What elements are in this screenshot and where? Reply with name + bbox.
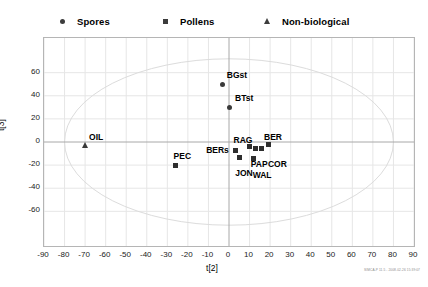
data-point-label: PEC	[174, 152, 191, 161]
legend-label: Non-biological	[282, 16, 349, 27]
y-axis-title: t[3]	[0, 119, 6, 131]
y-tick-label: -40	[16, 183, 40, 191]
data-point-label: WAL	[253, 171, 272, 180]
data-point-label: BTst	[235, 94, 253, 103]
legend-entry[interactable]: Pollens	[160, 12, 215, 30]
data-point-label: BERs	[206, 146, 229, 155]
legend-label: Spores	[77, 16, 110, 27]
triangle-marker-icon	[82, 142, 88, 148]
data-point-label: PAP	[251, 160, 268, 169]
data-point-label: OIL	[89, 133, 103, 142]
x-tick-label: 90	[400, 250, 426, 259]
circle-marker-icon	[220, 82, 225, 87]
circle-marker-icon	[227, 105, 232, 110]
y-tick-label: 0	[16, 137, 40, 145]
square-marker-icon	[259, 146, 264, 151]
y-tick-label: 20	[16, 114, 40, 122]
square-marker-icon	[233, 148, 238, 153]
square-marker-icon	[160, 16, 171, 27]
y-tick-label: 60	[16, 68, 40, 76]
x-axis-tick-labels: -90-80-70-60-50-40-30-20-100102030405060…	[43, 250, 415, 262]
data-point-label: BER	[264, 133, 282, 142]
plot-area: BGstBTstPECBERsRAGPAPCORBERJONWALOIL	[43, 37, 415, 247]
square-marker-icon	[251, 156, 256, 161]
data-point-label: COR	[268, 160, 287, 169]
y-tick-label: 40	[16, 91, 40, 99]
square-marker-icon	[237, 155, 242, 160]
legend-entry[interactable]: Spores	[57, 12, 110, 30]
circle-marker-icon	[57, 16, 68, 27]
y-tick-label: -20	[16, 160, 40, 168]
x-axis-title-text: t[2]	[206, 263, 218, 273]
scatter-plot-figure: SporesPollensNon-biological 6040200-20-4…	[0, 0, 428, 287]
legend: SporesPollensNon-biological	[0, 12, 428, 30]
y-tick-label: -60	[16, 206, 40, 214]
triangle-marker-icon	[262, 16, 273, 27]
data-point-label: BGst	[227, 71, 247, 80]
square-marker-icon	[247, 144, 252, 149]
software-watermark: SIMCA-P 11.5 - 2008-02-26 15:39:07	[364, 268, 420, 272]
square-marker-icon	[266, 142, 271, 147]
data-point-label: JON	[235, 169, 252, 178]
square-marker-icon	[173, 163, 178, 168]
square-marker-icon	[253, 146, 258, 151]
data-points-layer: BGstBTstPECBERsRAGPAPCORBERJONWALOIL	[44, 38, 414, 246]
y-axis-tick-labels: 6040200-20-40-60	[13, 37, 40, 247]
legend-entry[interactable]: Non-biological	[262, 12, 349, 30]
data-point-label: RAG	[234, 136, 253, 145]
legend-label: Pollens	[180, 16, 215, 27]
